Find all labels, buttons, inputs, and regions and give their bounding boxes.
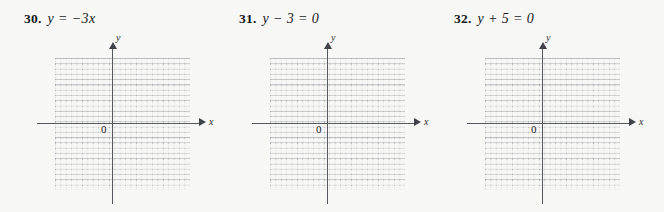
y-axis-arrow-icon (109, 42, 117, 49)
problem-equation: y = −3x (47, 11, 95, 26)
x-axis-line (37, 123, 201, 124)
x-axis-label: x (209, 116, 213, 127)
problem-equation: y − 3 = 0 (262, 11, 319, 26)
origin-label: 0 (101, 124, 107, 135)
grid-field (270, 58, 405, 190)
problem-block: 30.y = −3x x y 0 (0, 0, 215, 212)
problem-header: 30.y = −3x (24, 12, 96, 26)
problem-number: 30. (24, 11, 41, 26)
y-axis-label: y (331, 32, 335, 43)
x-axis-arrow-icon (199, 118, 206, 126)
exercise-page: 30.y = −3x x y 0 31.y − 3 = 0 x y (0, 0, 664, 212)
x-axis-line (467, 123, 631, 124)
y-axis-line (112, 46, 113, 204)
x-axis-label: x (424, 116, 428, 127)
x-axis-arrow-icon (414, 118, 421, 126)
y-axis-line (542, 46, 543, 204)
y-axis-arrow-icon (324, 42, 332, 49)
grid-field (485, 58, 620, 190)
grid-field (55, 58, 190, 190)
problem-block: 31.y − 3 = 0 x y 0 (215, 0, 430, 212)
problem-equation: y + 5 = 0 (477, 11, 534, 26)
problem-header: 31.y − 3 = 0 (239, 12, 319, 26)
y-axis-label: y (546, 32, 550, 43)
problem-number: 31. (239, 11, 256, 26)
problem-header: 32.y + 5 = 0 (454, 12, 534, 26)
origin-label: 0 (531, 124, 537, 135)
origin-label: 0 (316, 124, 322, 135)
x-axis-line (252, 123, 416, 124)
y-axis-arrow-icon (539, 42, 547, 49)
problem-block: 32.y + 5 = 0 x y 0 (430, 0, 645, 212)
y-axis-line (327, 46, 328, 204)
y-axis-label: y (116, 32, 120, 43)
x-axis-arrow-icon (629, 118, 636, 126)
x-axis-label: x (639, 116, 643, 127)
coordinate-grid: x y 0 (33, 40, 209, 200)
coordinate-grid: x y 0 (248, 40, 424, 200)
problem-number: 32. (454, 11, 471, 26)
coordinate-grid: x y 0 (463, 40, 639, 200)
